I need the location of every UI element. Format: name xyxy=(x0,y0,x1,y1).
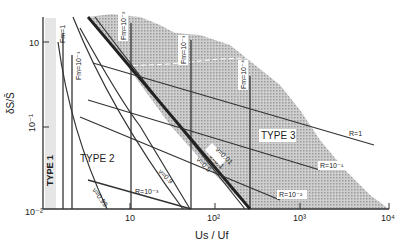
fm-0.1-label: Fm=10⁻¹ xyxy=(75,51,82,80)
r-0.01-label: R=10⁻² xyxy=(279,191,303,198)
type2-label: TYPE 2 xyxy=(80,153,115,164)
r-0.1-label: R=10⁻¹ xyxy=(320,162,344,169)
fm-1-label: Fm=1 xyxy=(59,25,66,43)
ytick-10: 10 xyxy=(29,38,39,48)
xtick-1000: 10³ xyxy=(293,213,306,223)
xtick-10: 10 xyxy=(125,213,135,223)
ytick-0.1: 10⁻¹ xyxy=(27,114,37,132)
xtick-100: 10² xyxy=(207,213,220,223)
x-axis-label: Us / Uf xyxy=(195,229,230,241)
fm-0.001-label: Fm=10⁻³ xyxy=(180,35,187,64)
r-0.001-label: R=10⁻³ xyxy=(135,188,159,195)
phase-diagram: 10 10⁻¹ 10⁻² 10 10² 10³ 10⁴ δS/S̄ Us / U… xyxy=(0,0,403,247)
fm-0.01-label: Fm=10⁻² xyxy=(120,11,127,40)
xtick-10000: 10⁴ xyxy=(381,213,395,223)
type3-region xyxy=(88,14,389,209)
ytick-0.01: 10⁻² xyxy=(25,207,43,217)
type3-label: TYPE 3 xyxy=(261,130,296,141)
fm-0.0001-label: Fm=10⁻⁴ xyxy=(240,60,247,89)
nu-0.99-label: ν=0.99 xyxy=(91,187,109,208)
type1-label: TYPE 1 xyxy=(45,155,55,186)
y-axis-label: δS/S̄ xyxy=(4,92,16,114)
r-1-label: R=1 xyxy=(349,130,362,137)
